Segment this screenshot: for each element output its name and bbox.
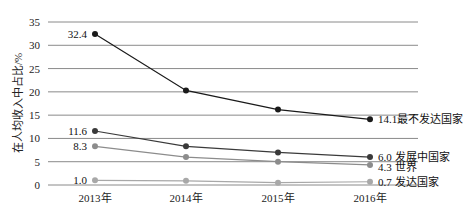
data-point	[367, 162, 373, 168]
series-0: 32.414.1最不发达国家	[68, 28, 464, 125]
y-axis-label: 在人均收入中占比/%	[11, 53, 24, 153]
start-value-label: 11.6	[68, 125, 87, 137]
line-chart: 05101520253035 2013年2014年2015年2016年 32.4…	[0, 0, 468, 215]
x-tick-label: 2013年	[79, 191, 112, 204]
data-point	[92, 177, 98, 183]
data-point	[367, 179, 373, 185]
data-point	[275, 149, 281, 155]
data-point	[367, 154, 373, 160]
y-tick-label: 15	[29, 109, 41, 121]
data-point	[183, 154, 189, 160]
start-value-label: 32.4	[68, 28, 88, 40]
series-line	[95, 131, 370, 157]
x-tick-label: 2014年	[170, 191, 203, 204]
y-tick-label: 20	[29, 86, 41, 98]
data-point	[183, 87, 189, 93]
series-lines: 32.414.1最不发达国家11.66.0 发展中国家8.34.3 世界1.00…	[68, 28, 464, 188]
data-point	[367, 116, 373, 122]
x-tick-label: 2015年	[262, 191, 295, 204]
y-tick-label: 10	[29, 132, 41, 144]
y-tick-label: 35	[29, 16, 41, 28]
data-point	[92, 31, 98, 37]
start-value-label: 1.0	[73, 174, 87, 186]
gridlines	[48, 22, 418, 185]
y-tick-label: 25	[29, 63, 41, 75]
y-tick-label: 30	[29, 39, 41, 51]
series-3: 1.00.7 发达国家	[73, 174, 438, 187]
data-point	[275, 180, 281, 186]
x-axis-ticks: 2013年2014年2015年2016年	[79, 191, 387, 204]
data-point	[183, 143, 189, 149]
y-tick-label: 5	[35, 156, 41, 168]
data-point	[275, 107, 281, 113]
end-value-label: 0.7 发达国家	[378, 175, 439, 188]
y-tick-label: 0	[35, 179, 41, 191]
start-value-label: 8.3	[73, 140, 87, 152]
end-value-label: 4.3 世界	[378, 161, 417, 173]
x-tick-label: 2016年	[354, 191, 387, 204]
data-point	[92, 143, 98, 149]
data-point	[275, 159, 281, 165]
data-point	[92, 128, 98, 134]
y-axis-ticks: 05101520253035	[29, 16, 41, 191]
series-line	[95, 180, 370, 182]
end-value-label: 14.1最不发达国家	[378, 112, 463, 125]
series-1: 11.66.0 发展中国家	[68, 125, 449, 163]
data-point	[183, 178, 189, 184]
series-line	[95, 34, 370, 119]
